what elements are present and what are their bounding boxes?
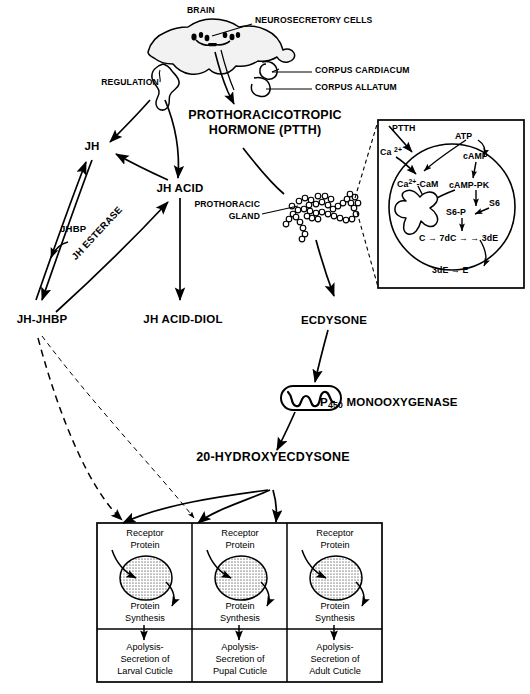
diagram-canvas: BRAIN NEUROSECRETORY CELLS CORPUS CARDIA… xyxy=(0,0,530,694)
p450-monooxygenase-label: P450 MONOOXYGENASE xyxy=(320,396,458,411)
calcium-ion-charge: 2+ xyxy=(394,146,402,153)
brain-organ-group xyxy=(148,19,312,110)
column-larval-graphics xyxy=(112,550,174,640)
jh-label: JH xyxy=(72,140,112,153)
pupal-receptor-line2: Protein xyxy=(198,540,282,551)
ecdysone-label: ECDYSONE xyxy=(284,314,384,327)
adult-receptor-line2: Protein xyxy=(293,540,377,551)
inset-calcium-label: Ca 2+ xyxy=(380,146,402,158)
corpus-cardiacum-label: CORPUS CARDIACUM xyxy=(315,66,445,76)
adult-outcome-line2: Secretion of xyxy=(290,654,380,665)
pupal-outcome-line1: Apolysis- xyxy=(195,642,285,653)
arrow-jhjhbp-to-pupal xyxy=(42,336,194,518)
adult-receptor-line1: Receptor xyxy=(293,528,377,539)
p450-subscript: 450 xyxy=(328,400,343,410)
column-pupal-graphics xyxy=(207,550,269,640)
cam-tail-text: -CaM xyxy=(416,179,438,189)
jh-acid-label: JH ACID xyxy=(135,182,225,195)
pupal-outcome-line3: Pupal Cuticle xyxy=(195,666,285,677)
jhbp-label: JHBP xyxy=(60,224,86,235)
hydroxyecdysone-distribution xyxy=(123,490,276,523)
jh-cycle-arrows xyxy=(36,154,180,312)
inset-s6p-label: S6-P xyxy=(446,208,466,218)
arrow-jhacid-to-jh xyxy=(116,154,168,180)
diagram-vector-layer xyxy=(0,0,530,694)
neurosecretory-cells-label: NEUROSECRETORY CELLS xyxy=(255,16,405,26)
pupal-outcome-line2: Secretion of xyxy=(195,654,285,665)
pupal-synthesis-line1: Protein xyxy=(198,601,282,612)
arrow-regulation-to-jh-acid xyxy=(165,100,178,178)
arrow-gland-to-ecdysone xyxy=(316,240,334,296)
cam-ion-text: Ca xyxy=(397,179,408,189)
larval-receptor-line2: Protein xyxy=(103,540,187,551)
larval-synthesis-line1: Protein xyxy=(103,601,187,612)
prothoracic-gland-label-line1: PROTHORACIC xyxy=(178,200,260,210)
p450-prefix: P xyxy=(320,396,328,408)
adult-outcome-line1: Apolysis- xyxy=(290,642,380,653)
inset-camp-label: cAMP xyxy=(463,152,488,162)
inset-s6-label: S6 xyxy=(489,199,500,209)
larval-outcome-line2: Secretion of xyxy=(100,654,190,665)
inset-atp-label: ATP xyxy=(455,132,472,142)
arrow-jhjhbp-to-larval xyxy=(38,338,122,520)
brain-label: BRAIN xyxy=(166,6,236,16)
inset-ptth-label: PTTH xyxy=(392,124,415,134)
larval-receptor-line1: Receptor xyxy=(103,528,187,539)
corpus-allatum-label: CORPUS ALLATUM xyxy=(315,83,445,93)
prothoracic-gland-group xyxy=(243,148,361,296)
adult-synthesis-line2: Synthesis xyxy=(293,613,377,624)
jhbp-dashed-arrows xyxy=(38,338,122,520)
inset-3de-to-e-label: 3dE → E xyxy=(432,266,468,276)
arrow-regulation-to-jh xyxy=(110,100,150,142)
regulation-arrows xyxy=(110,100,178,178)
arrow-p450-to-20he xyxy=(277,412,295,450)
regulation-label: REGULATION xyxy=(90,78,170,88)
inset-cholesterol-pathway-label: C → 7dC → → 3dE xyxy=(419,234,498,244)
inset-calcium-cam-label: Ca2+-CaM xyxy=(397,178,438,190)
jh-jhbp-label: JH-JHBP xyxy=(2,313,82,326)
inset-camp-pk-label: cAMP-PK xyxy=(449,181,489,191)
arrow-20he-to-adult xyxy=(273,490,276,522)
column-adult-graphics xyxy=(302,550,364,640)
pupal-receptor-line1: Receptor xyxy=(198,528,282,539)
jh-acid-diol-label: JH ACID-DIOL xyxy=(128,313,238,326)
jhbp-dashed-arrows-2 xyxy=(42,336,194,518)
ptth-label-line1: PROTHORACICOTROPIC xyxy=(180,108,350,122)
ecdysone-conversion xyxy=(277,330,341,450)
hydroxyecdysone-label: 20-HYDROXYECDYSONE xyxy=(173,450,373,464)
p450-suffix: MONOOXYGENASE xyxy=(343,396,458,408)
prothoracic-gland-label-line2: GLAND xyxy=(178,212,260,222)
larval-outcome-line1: Apolysis- xyxy=(100,642,190,653)
arrow-ecdysone-to-p450 xyxy=(315,330,328,382)
larval-outcome-line3: Larval Cuticle xyxy=(100,666,190,677)
arrow-20he-to-larval xyxy=(123,490,268,523)
ptth-label-line2: HORMONE (PTTH) xyxy=(180,123,350,137)
arrow-ptth-to-gland xyxy=(243,148,284,194)
adult-outcome-line3: Adult Cuticle xyxy=(290,666,380,677)
adult-synthesis-line1: Protein xyxy=(293,601,377,612)
pupal-synthesis-line2: Synthesis xyxy=(198,613,282,624)
larval-synthesis-line2: Synthesis xyxy=(103,613,187,624)
calcium-ion-text: Ca xyxy=(380,147,394,157)
